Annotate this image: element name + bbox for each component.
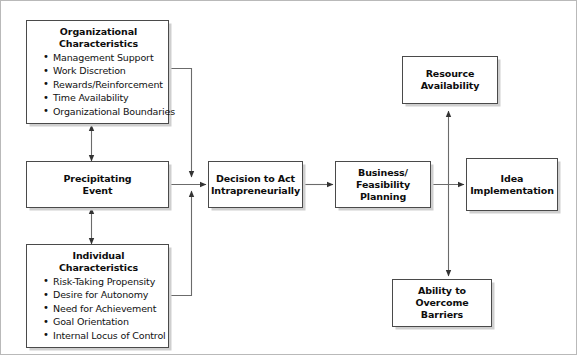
node-title: Individual Characteristics: [33, 250, 164, 274]
node-individual-characteristics[interactable]: Individual Characteristics Risk-Taking P…: [26, 244, 169, 348]
node-organizational-characteristics[interactable]: Organizational Characteristics Managemen…: [26, 20, 169, 124]
node-title-line-2: Event: [83, 185, 113, 197]
connector-individual-to-decision: [169, 191, 192, 296]
node-title-line-2: Feasibility Planning: [336, 179, 430, 203]
node-decision-to-act[interactable]: Decision to Act Intrapreneurially: [208, 161, 303, 208]
node-idea-implementation[interactable]: Idea Implementation: [466, 158, 558, 211]
list-item: Work Discretion: [43, 64, 164, 77]
node-title-line-1: Ability to: [418, 285, 466, 297]
node-title: Organizational Characteristics: [33, 26, 164, 50]
node-title-line-1: Idea: [501, 173, 524, 185]
node-bullet-list: Management Support Work Discretion Rewar…: [33, 51, 164, 118]
node-resource-availability[interactable]: Resource Availability: [402, 56, 498, 104]
list-item: Internal Locus of Control: [43, 329, 164, 342]
node-business-feasibility-planning[interactable]: Business/ Feasibility Planning: [335, 161, 431, 208]
list-item: Organizational Boundaries: [43, 105, 164, 118]
node-title-line-1: Business/: [358, 167, 408, 179]
diagram-canvas: Organizational Characteristics Managemen…: [0, 0, 577, 355]
node-title-line-2: Implementation: [470, 185, 554, 197]
node-bullet-list: Risk-Taking Propensity Desire for Autono…: [33, 275, 164, 342]
connector-org-to-decision: [169, 69, 192, 178]
list-item: Rewards/Reinforcement: [43, 78, 164, 91]
node-title-line-1: Individual: [33, 250, 164, 262]
node-title-line-2: Availability: [421, 80, 480, 92]
node-title-line-1: Resource: [426, 68, 475, 80]
list-item: Risk-Taking Propensity: [43, 275, 164, 288]
node-title-line-2: Characteristics: [33, 38, 164, 50]
node-title-line-1: Decision to Act: [216, 173, 295, 185]
node-title-line-1: Organizational: [33, 26, 164, 38]
list-item: Desire for Autonomy: [43, 288, 164, 301]
node-ability-to-overcome-barriers[interactable]: Ability to Overcome Barriers: [392, 279, 492, 327]
node-precipitating-event[interactable]: Precipitating Event: [26, 161, 169, 208]
list-item: Goal Orientation: [43, 315, 164, 328]
node-title-line-2: Overcome Barriers: [393, 297, 491, 321]
list-item: Need for Achievement: [43, 302, 164, 315]
node-title-line-2: Characteristics: [33, 262, 164, 274]
list-item: Management Support: [43, 51, 164, 64]
node-title-line-2: Intrapreneurially: [211, 185, 300, 197]
list-item: Time Availability: [43, 91, 164, 104]
node-title-line-1: Precipitating: [63, 173, 131, 185]
